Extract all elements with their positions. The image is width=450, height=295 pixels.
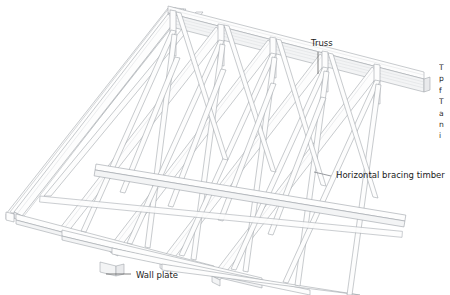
clipped-text-line: f [439,85,450,96]
truss-drawing: Truss Horizontal bracing timber Wall pla… [0,0,450,295]
callout-label-horizontal-bracing-timber: Horizontal bracing timber [336,170,445,180]
clipped-text-line: a [439,108,450,119]
clipped-text-line: n [439,119,450,130]
clipped-text-line: p [439,73,450,84]
callout-label-wall-plate: Wall plate [136,270,178,280]
clipped-text-line: T [439,62,450,73]
clipped-body-text-column: T p f T a n i [439,62,450,142]
clipped-text-line: T [439,96,450,107]
truss-frame [62,24,262,288]
clipped-text-line: i [439,130,450,141]
callout-label-truss: Truss [310,38,333,48]
roof-truss-figure: Truss Horizontal bracing timber Wall pla… [0,0,450,295]
